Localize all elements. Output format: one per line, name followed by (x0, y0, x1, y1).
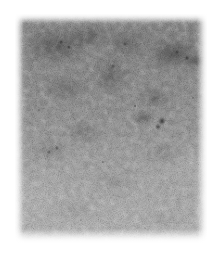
figure-caption (15, 245, 207, 265)
micrograph-image (15, 14, 207, 243)
coarse-grain-noise-svg (15, 14, 207, 243)
page-root (0, 0, 224, 267)
micrograph-coarse-grain-layer (15, 14, 207, 243)
